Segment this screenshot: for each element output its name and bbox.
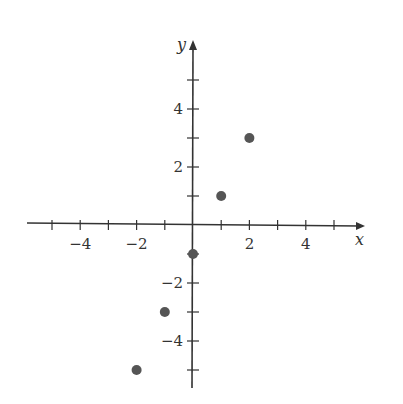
x-axis-arrow-icon [356, 222, 365, 230]
y-tick-label: 2 [173, 158, 183, 176]
y-axis-arrow-icon [189, 40, 197, 50]
x-tick-label: −2 [126, 235, 148, 253]
y-tick-label: −2 [161, 274, 183, 292]
x-axis-line [27, 223, 360, 226]
data-point [188, 249, 198, 259]
data-point [244, 133, 254, 143]
data-point [132, 365, 142, 375]
x-tick-label: 4 [301, 235, 311, 253]
y-tick-label: −4 [161, 332, 183, 350]
x-tick-label: −4 [69, 235, 91, 253]
axes [27, 40, 365, 388]
y-tick-label: 4 [173, 100, 183, 118]
scatter-chart: −4−22442−2−4 x y [0, 0, 403, 404]
y-axis-label: y [176, 35, 187, 54]
y-axis-line [192, 47, 193, 388]
x-axis-label: x [355, 230, 364, 249]
data-point [160, 307, 170, 317]
data-point [216, 191, 226, 201]
x-tick-label: 2 [245, 235, 255, 253]
